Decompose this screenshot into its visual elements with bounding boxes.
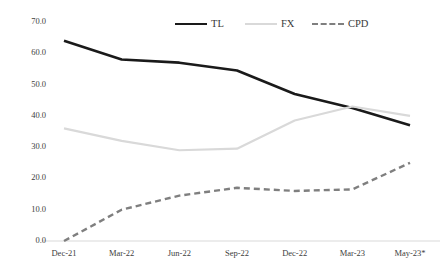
legend-label: FX — [281, 19, 294, 30]
legend-swatch-tl-icon — [175, 23, 207, 25]
x-axis-tick-label: Sep-22 — [207, 249, 267, 258]
line-chart: 0.010.020.030.040.050.060.070.0 Dec-21Ma… — [0, 0, 448, 272]
legend-item-fx[interactable]: FX — [245, 17, 294, 31]
x-axis-tick-label: Jun-22 — [149, 249, 209, 258]
x-axis-tick-label: Mar-23 — [322, 249, 382, 258]
legend-item-tl[interactable]: TL — [175, 17, 224, 31]
y-axis-tick-label: 30.0 — [0, 142, 46, 151]
legend-label: TL — [211, 19, 224, 30]
y-axis-tick-label: 10.0 — [0, 205, 46, 214]
y-axis-tick-label: 60.0 — [0, 48, 46, 57]
x-axis-tick-label: Dec-22 — [265, 249, 325, 258]
series-line-cpd — [64, 163, 410, 241]
legend-swatch-cpd-icon — [312, 23, 344, 25]
y-axis-tick-label: 20.0 — [0, 173, 46, 182]
legend-label: CPD — [348, 19, 368, 30]
x-axis-tick-label: Dec-21 — [34, 249, 94, 258]
y-axis-tick-label: 0.0 — [0, 236, 46, 245]
series-line-fx — [64, 106, 410, 150]
legend-item-cpd[interactable]: CPD — [312, 17, 368, 31]
legend-swatch-fx-icon — [245, 23, 277, 25]
chart-plot-area — [0, 0, 448, 272]
x-axis-tick-label: Mar-22 — [92, 249, 152, 258]
chart-legend: TLFXCPD — [0, 0, 448, 34]
series-line-tl — [64, 41, 410, 125]
x-axis-tick-label: May-23* — [380, 249, 440, 258]
y-axis-tick-label: 40.0 — [0, 111, 46, 120]
y-axis-tick-label: 50.0 — [0, 80, 46, 89]
